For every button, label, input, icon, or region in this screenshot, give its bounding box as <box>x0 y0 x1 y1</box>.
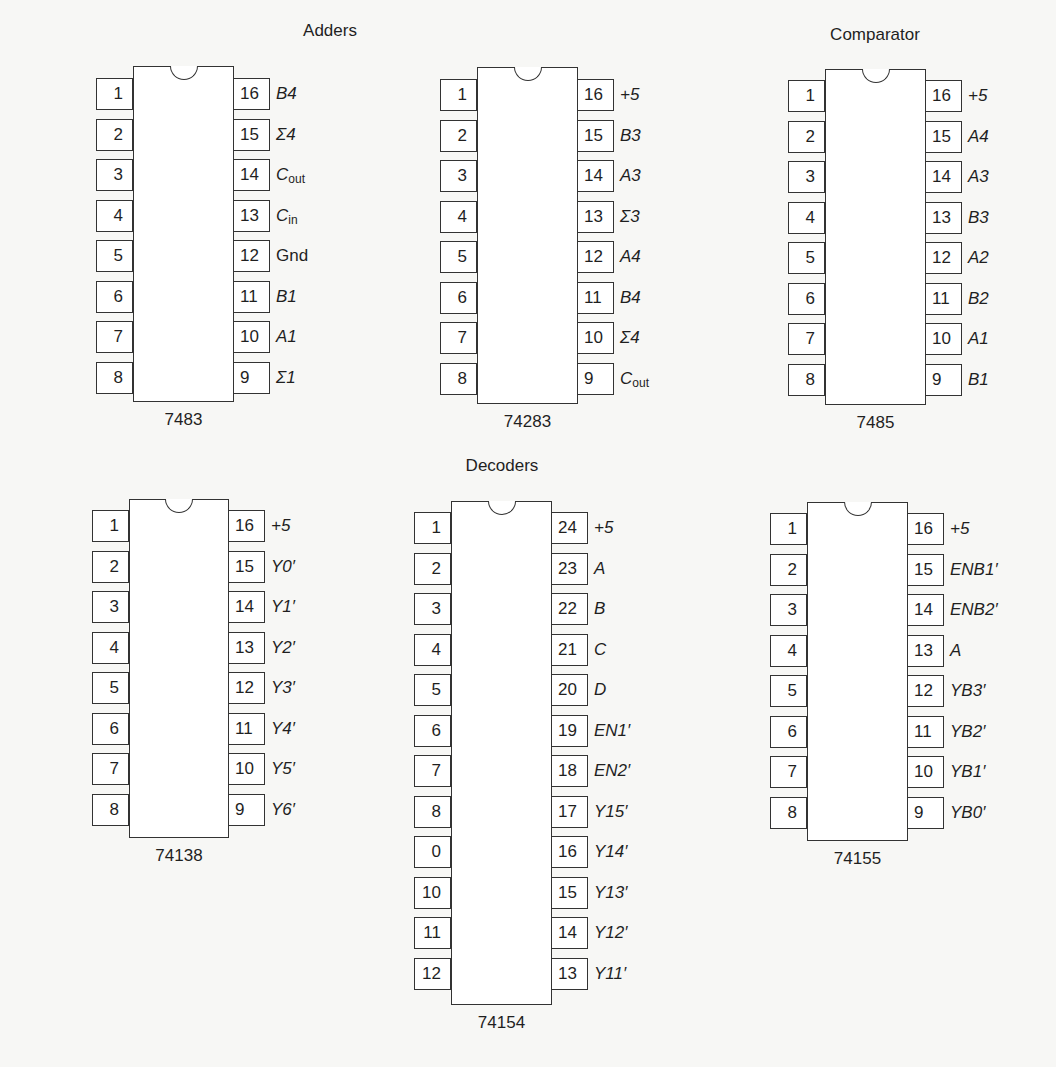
signal-name: C <box>620 369 632 388</box>
pin-number-box: 8 <box>788 364 825 396</box>
part-number-label: 74155 <box>834 849 881 869</box>
pin-signal-label: YB3′ <box>950 675 985 707</box>
pin-number-box: 7 <box>770 756 807 788</box>
part-number-label: 7483 <box>165 410 203 430</box>
pin-signal-label: Y14′ <box>594 836 627 868</box>
pin-number-box: 11 <box>228 713 265 745</box>
signal-name: Y11′ <box>594 964 626 983</box>
pin-signal-label: Y1′ <box>271 591 295 623</box>
pin-number-box: 24 <box>551 512 588 544</box>
pin-number-box: 13 <box>228 632 265 664</box>
pin-signal-label: ENB2′ <box>950 594 998 626</box>
chip-body <box>129 499 229 838</box>
pin-number-box: 1 <box>440 79 477 111</box>
part-number-label: 7485 <box>857 413 895 433</box>
pin-number-box: 12 <box>577 241 614 273</box>
signal-name: B <box>594 599 605 618</box>
signal-name: YB1′ <box>950 762 985 781</box>
pin1-notch-icon <box>488 501 516 515</box>
signal-name: B3 <box>620 126 641 145</box>
signal-subscript: out <box>632 376 649 390</box>
pin-number-box: 16 <box>925 80 962 112</box>
signal-name: Gnd <box>276 246 308 265</box>
pin-signal-label: D <box>594 674 606 706</box>
pin-number-box: 2 <box>788 121 825 153</box>
pin-number-box: 8 <box>414 796 451 828</box>
pin-signal-label: +5 <box>271 510 290 542</box>
signal-name: A1 <box>276 327 297 346</box>
pin-signal-label: A4 <box>968 121 989 153</box>
pin-signal-label: B <box>594 593 605 625</box>
pin-signal-label: Y6′ <box>271 794 295 826</box>
pin-number-box: 5 <box>440 241 477 273</box>
pin-number-box: 23 <box>551 553 588 585</box>
pin-number-box: 16 <box>228 510 265 542</box>
pin-number-box: 6 <box>440 282 477 314</box>
pin-number-box: 16 <box>907 513 944 545</box>
pin-number-box: 1 <box>788 80 825 112</box>
signal-name: YB3′ <box>950 681 985 700</box>
pin-number-box: 20 <box>551 674 588 706</box>
part-number-label: 74154 <box>478 1013 525 1033</box>
signal-name: A3 <box>968 167 989 186</box>
pin-number-box: 15 <box>577 120 614 152</box>
chip-body <box>825 69 926 405</box>
pin-signal-label: B3 <box>620 120 641 152</box>
pin-number-box: 14 <box>233 159 270 191</box>
signal-name: A2 <box>968 248 989 267</box>
signal-name: B3 <box>968 208 989 227</box>
pin-number-box: 3 <box>92 591 129 623</box>
pin-number-box: 11 <box>233 281 270 313</box>
pin-signal-label: Σ4 <box>276 119 296 151</box>
pin-number-box: 0 <box>414 836 451 868</box>
pin-signal-label: Y15′ <box>594 796 627 828</box>
pin-signal-label: Cout <box>276 159 305 195</box>
pin-signal-label: A4 <box>620 241 641 273</box>
signal-name: B2 <box>968 289 989 308</box>
pin-number-box: 8 <box>96 362 133 394</box>
pin-number-box: 1 <box>414 512 451 544</box>
signal-name: Σ3 <box>620 207 640 226</box>
pin-number-box: 2 <box>96 119 133 151</box>
group-title: Decoders <box>466 456 539 476</box>
pin-signal-label: A <box>594 553 605 585</box>
part-number-label: 74283 <box>504 412 551 432</box>
pin-signal-label: YB2′ <box>950 716 985 748</box>
signal-name: A4 <box>968 127 989 146</box>
pin-number-box: 2 <box>414 553 451 585</box>
pin1-notch-icon <box>165 499 193 513</box>
pin1-notch-icon <box>514 67 542 81</box>
signal-name: Y15′ <box>594 802 627 821</box>
signal-name: +5 <box>950 519 969 538</box>
pin-number-box: 2 <box>92 551 129 583</box>
signal-subscript: in <box>288 213 297 227</box>
pin-number-box: 14 <box>925 161 962 193</box>
signal-name: B1 <box>276 287 297 306</box>
pin-number-box: 13 <box>233 200 270 232</box>
pin-number-box: 10 <box>233 321 270 353</box>
pin-signal-label: B2 <box>968 283 989 315</box>
signal-name: A <box>950 641 961 660</box>
signal-name: C <box>594 640 606 659</box>
signal-name: Y13′ <box>594 883 627 902</box>
pin-number-box: 15 <box>233 119 270 151</box>
pin-number-box: 16 <box>551 836 588 868</box>
signal-name: +5 <box>968 86 987 105</box>
pin-number-box: 11 <box>414 917 451 949</box>
pin-number-box: 3 <box>96 159 133 191</box>
pin-number-box: 12 <box>925 242 962 274</box>
pin-number-box: 3 <box>788 161 825 193</box>
pin-number-box: 11 <box>907 716 944 748</box>
pin-number-box: 13 <box>925 202 962 234</box>
pin-signal-label: +5 <box>594 512 613 544</box>
signal-name: A4 <box>620 247 641 266</box>
signal-name: Y6′ <box>271 800 295 819</box>
pin-number-box: 14 <box>577 160 614 192</box>
pin-number-box: 5 <box>414 674 451 706</box>
signal-name: +5 <box>271 516 290 535</box>
pin-number-box: 1 <box>770 513 807 545</box>
pin-number-box: 13 <box>551 958 588 990</box>
pin-number-box: 19 <box>551 715 588 747</box>
pin-signal-label: Y4′ <box>271 713 295 745</box>
signal-name: Y1′ <box>271 597 295 616</box>
